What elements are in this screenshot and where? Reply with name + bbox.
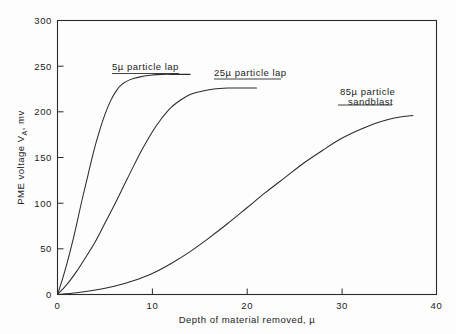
x-tick-label-0: 0 [55,300,61,311]
curve-5u-particle-lap [58,74,191,294]
y-tick-label-150: 150 [34,152,52,163]
svg-text:PME voltage VA, mv: PME voltage VA, mv [15,110,28,204]
y-axis-tick-labels: 0 50 100 150 200 250 300 [34,15,52,300]
y-axis-title-prefix: PME voltage V [15,135,26,204]
y-tick-label-0: 0 [46,289,52,300]
y-tick-label-200: 200 [34,106,52,117]
annotation-25u-particle-lap: 25µ particle lap [214,67,287,78]
x-tick-label-40: 40 [431,300,443,311]
y-axis-title-suffix: , mv [15,110,26,130]
y-tick-label-100: 100 [34,198,52,209]
y-tick-label-250: 250 [34,61,52,72]
plot-area: 0 50 100 150 200 250 300 0 10 20 30 40 D… [0,0,456,334]
y-tick-label-50: 50 [40,243,52,254]
x-tick-label-10: 10 [147,300,159,311]
series-annotations: 5µ particle lap 25µ particle lap 85µ par… [112,61,395,107]
y-axis-title: PME voltage VA, mv [15,110,28,204]
x-tick-label-20: 20 [241,300,253,311]
y-tick-label-300: 300 [34,15,52,26]
x-axis-title: Depth of material removed, µ [179,314,316,325]
annotation-5u-particle-lap: 5µ particle lap [112,61,179,72]
annotation-sandblast: sandblast [348,96,393,107]
curve-25u-particle-lap [58,88,257,294]
x-axis-tick-labels: 0 10 20 30 40 [55,300,443,311]
x-tick-label-30: 30 [336,300,348,311]
chart-figure: 0 50 100 150 200 250 300 0 10 20 30 40 D… [0,0,456,334]
curve-85u-particle-sandblast [58,115,413,294]
y-axis-ticks [58,21,64,295]
series-curves [58,74,413,294]
x-axis-ticks [58,289,437,295]
